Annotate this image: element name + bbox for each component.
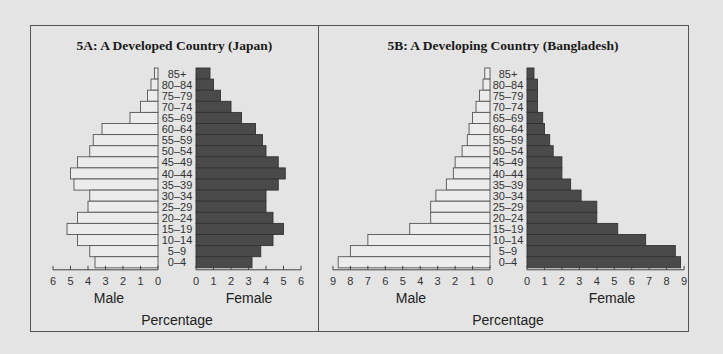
bar-female-15–19: [196, 223, 284, 234]
bar-male-30–34: [436, 190, 490, 201]
bar-female-20–24: [527, 212, 597, 223]
bar-female-0–4: [527, 257, 681, 268]
male-tick-label: 9: [330, 275, 336, 287]
bar-female-35–39: [527, 179, 571, 190]
bar-female-5–9: [527, 246, 675, 257]
female-tick-label: 3: [245, 275, 251, 287]
bar-male-70–74: [476, 101, 490, 112]
male-tick-label: 3: [102, 275, 108, 287]
male-tick-label: 6: [382, 275, 388, 287]
bar-female-70–74: [527, 101, 537, 112]
bar-female-70–74: [196, 101, 231, 112]
bar-male-85+: [485, 68, 490, 79]
bar-female-20–24: [196, 212, 273, 223]
bar-female-45–49: [196, 157, 278, 168]
bar-female-85+: [527, 68, 534, 79]
bar-male-30–34: [90, 190, 158, 201]
bar-female-40–44: [527, 168, 562, 179]
bar-male-40–44: [71, 168, 159, 179]
female-tick-label: 0: [524, 275, 530, 287]
bar-female-15–19: [527, 223, 618, 234]
bar-female-75–79: [196, 90, 221, 101]
bar-male-15–19: [410, 223, 490, 234]
female-tick-label: 3: [576, 275, 582, 287]
x-axis-title: Percentage: [472, 312, 544, 328]
female-tick-label: 5: [280, 275, 286, 287]
male-tick-label: 2: [452, 275, 458, 287]
male-tick-label: 8: [347, 275, 353, 287]
panel-bangladesh: 5B: A Developing Country (Bangladesh) 85…: [318, 26, 688, 331]
bar-male-10–14: [368, 235, 490, 246]
bar-female-55–59: [527, 135, 550, 146]
bar-male-70–74: [141, 101, 159, 112]
bar-male-80–84: [151, 79, 158, 90]
male-tick-label: 5: [67, 275, 73, 287]
bar-female-5–9: [196, 246, 261, 257]
bar-male-45–49: [78, 157, 159, 168]
female-tick-label: 9: [681, 275, 687, 287]
male-tick-label: 5: [400, 275, 406, 287]
bar-male-65–69: [130, 112, 158, 123]
male-axis-label: Male: [94, 290, 125, 306]
bar-male-50–54: [90, 146, 158, 157]
male-tick-label: 0: [155, 275, 161, 287]
bar-male-20–24: [78, 212, 159, 223]
male-tick-label: 6: [50, 275, 56, 287]
male-tick-label: 0: [487, 275, 493, 287]
female-tick-label: 2: [559, 275, 565, 287]
female-tick-label: 2: [228, 275, 234, 287]
bar-male-40–44: [453, 168, 490, 179]
bar-male-25–29: [88, 201, 158, 212]
bar-female-60–64: [527, 124, 544, 135]
bar-male-25–29: [431, 201, 490, 212]
male-axis-label: Male: [396, 290, 427, 306]
male-tick-label: 4: [417, 275, 423, 287]
bar-male-80–84: [483, 79, 490, 90]
bar-male-55–59: [467, 135, 490, 146]
bar-male-55–59: [93, 135, 158, 146]
female-tick-label: 7: [646, 275, 652, 287]
bar-female-50–54: [527, 146, 553, 157]
male-tick-label: 2: [120, 275, 126, 287]
female-axis-label: Female: [226, 290, 273, 306]
female-axis-label: Female: [589, 290, 636, 306]
bar-male-5–9: [90, 246, 158, 257]
bar-female-80–84: [196, 79, 214, 90]
male-tick-label: 4: [85, 275, 91, 287]
bar-female-0–4: [196, 257, 252, 268]
age-group-label: 0–4: [168, 256, 186, 268]
bar-male-65–69: [473, 112, 490, 123]
male-tick-label: 7: [365, 275, 371, 287]
bar-female-45–49: [527, 157, 562, 168]
female-tick-label: 4: [594, 275, 600, 287]
bar-female-55–59: [196, 135, 263, 146]
bar-female-10–14: [196, 235, 273, 246]
male-tick-label: 1: [137, 275, 143, 287]
bar-male-10–14: [78, 235, 159, 246]
panel-japan: 5A: A Developed Country (Japan) 85+80–84…: [31, 26, 319, 331]
pyramid-chart-japan: 85+80–8475–7970–7465–6960–6455–5950–5445…: [31, 26, 318, 331]
bar-female-40–44: [196, 168, 285, 179]
bar-female-60–64: [196, 124, 256, 135]
female-tick-label: 6: [629, 275, 635, 287]
pyramid-chart-bangladesh: 85+80–8475–7970–7465–6960–6455–5950–5445…: [318, 26, 688, 331]
bar-male-60–64: [469, 124, 490, 135]
bar-female-80–84: [527, 79, 537, 90]
bar-female-65–69: [196, 112, 242, 123]
female-tick-label: 8: [664, 275, 670, 287]
male-tick-label: 1: [469, 275, 475, 287]
x-axis-title: Percentage: [141, 312, 213, 328]
bar-male-45–49: [455, 157, 490, 168]
bar-male-35–39: [446, 179, 490, 190]
female-tick-label: 1: [210, 275, 216, 287]
male-tick-label: 3: [435, 275, 441, 287]
bar-male-15–19: [67, 223, 158, 234]
bar-male-75–79: [480, 90, 490, 101]
bar-male-5–9: [350, 246, 490, 257]
bar-male-20–24: [431, 212, 490, 223]
bar-female-30–34: [196, 190, 266, 201]
bar-female-85+: [196, 68, 210, 79]
bar-male-50–54: [462, 146, 490, 157]
bar-female-25–29: [527, 201, 597, 212]
bar-male-0–4: [95, 257, 158, 268]
